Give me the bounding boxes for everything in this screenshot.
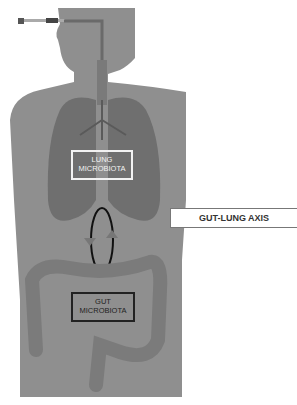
- anatomy-diagram: [0, 0, 297, 405]
- nasal-tube: [20, 19, 65, 22]
- trachea: [97, 60, 107, 105]
- gut-microbiota-label: GUT MICROBIOTA: [71, 292, 135, 322]
- gut-lung-axis-label: GUT-LUNG AXIS: [170, 208, 297, 228]
- lung-microbiota-label: LUNG MICROBIOTA: [71, 150, 133, 180]
